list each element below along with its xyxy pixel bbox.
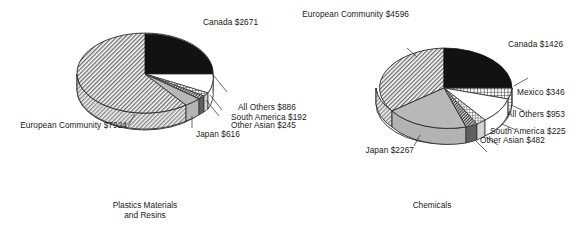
pie-label-canada-chemicals: Canada $1426	[508, 40, 563, 50]
chart-chemicals: European Community $4596 Canada $1426 Me…	[290, 0, 580, 239]
pie-slice-canada-chemicals[interactable]	[444, 48, 512, 88]
pie-label-other-asian-plastics: Other Asian $245	[231, 121, 296, 131]
chart-plastics-materials: Canada $2671 All Others $886 South Ameri…	[0, 0, 290, 239]
pie-label-european-community-chemicals: European Community $4596	[290, 10, 409, 20]
pie-label-japan-plastics: Japan $616	[196, 130, 240, 140]
pie-label-all-others-chemicals: All Others $953	[507, 110, 565, 120]
pie-label-other-asian-chemicals: Other Asian $482	[480, 136, 545, 146]
pie-label-canada-plastics: Canada $2671	[203, 18, 258, 28]
pie-label-mexico-chemicals: Mexico $346	[517, 88, 565, 98]
chart-caption-plastics: Plastics Materials and Resins	[45, 200, 245, 220]
leader-line-all-others-plastics	[214, 76, 227, 92]
chart-caption-chemicals: Chemicals	[332, 200, 532, 210]
pie-label-european-community-plastics: European Community $7924	[0, 121, 127, 131]
leader-line-canada-chemicals	[514, 78, 528, 86]
pie-slice-canada-plastics[interactable]	[145, 34, 213, 74]
two-pie-chart-figure: Canada $2671 All Others $886 South Ameri…	[0, 0, 580, 239]
pie-label-japan-chemicals: Japan $2267	[290, 146, 414, 156]
